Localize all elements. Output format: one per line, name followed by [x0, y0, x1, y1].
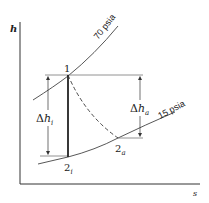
state-1-label: 1 — [64, 63, 70, 74]
actual-expansion-curve — [68, 75, 118, 138]
h-s-diagram: h s 70 psia 15 psia Δhi Δha 1 2i 2a — [0, 0, 209, 203]
dh-isentropic-label: Δhi — [36, 112, 53, 127]
x-axis-label: s — [193, 189, 197, 198]
isobar-15-psia-label: 15 psia — [156, 98, 186, 120]
state-2i-label: 2i — [64, 162, 73, 176]
isobar-70-psia-label: 70 psia — [92, 12, 118, 41]
state-2a-label: 2a — [115, 143, 126, 157]
y-axis-label: h — [10, 23, 17, 34]
isobar-70-psia — [33, 26, 118, 100]
